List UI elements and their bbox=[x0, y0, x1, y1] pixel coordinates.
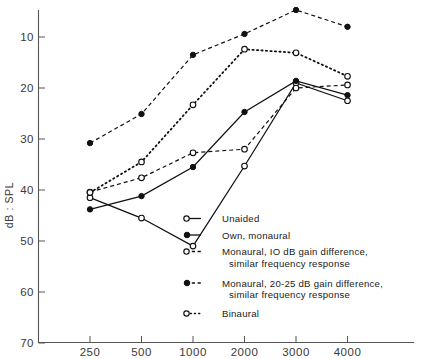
y-tick-label-40: 40 bbox=[20, 184, 34, 196]
data-point-open bbox=[345, 98, 351, 104]
data-series-layer bbox=[87, 7, 350, 249]
legend-marker-filled-circle bbox=[184, 280, 190, 286]
x-tick-label-4000: 4000 bbox=[334, 346, 362, 358]
x-tick-label-250: 250 bbox=[80, 346, 101, 358]
legend-marker-open-circle bbox=[184, 249, 189, 254]
data-point-filled bbox=[293, 78, 298, 83]
legend-label-own-monaural: Own, monaural bbox=[222, 230, 290, 241]
chart-plot-area: 10 20 30 40 50 60 70 dB : SPL 250 500 10… bbox=[0, 0, 436, 359]
data-point-open bbox=[139, 175, 145, 181]
data-point-filled bbox=[87, 140, 92, 145]
data-point-open bbox=[293, 50, 299, 56]
data-point-open bbox=[242, 46, 248, 52]
series-group bbox=[87, 80, 350, 249]
y-tick-label-10: 10 bbox=[20, 31, 34, 43]
legend-label-unaided: Unaided bbox=[222, 213, 260, 224]
legend-label-monaural-10db: Monaural, IO dB gain difference, bbox=[222, 246, 368, 257]
legend-marker-open-circle bbox=[184, 311, 189, 316]
x-axis-ticks: 250 500 1000 2000 3000 4000 bbox=[80, 336, 362, 358]
data-point-open bbox=[87, 190, 93, 196]
legend-entry-unaided: Unaided bbox=[184, 213, 260, 224]
data-point-open bbox=[345, 82, 351, 88]
y-tick-label-20: 20 bbox=[20, 82, 34, 94]
legend-label-monaural-10db-line2: similar frequency response bbox=[229, 258, 350, 269]
series-group bbox=[87, 46, 350, 195]
x-tick-label-1000: 1000 bbox=[179, 346, 207, 358]
y-tick-label-60: 60 bbox=[20, 286, 34, 298]
y-tick-label-70: 70 bbox=[20, 337, 34, 349]
legend-entry-monaural-20-25db: Monaural, 20-25 dB gain difference, simi… bbox=[184, 278, 383, 301]
data-point-filled bbox=[139, 193, 144, 198]
series-line bbox=[90, 83, 348, 246]
data-point-filled bbox=[242, 31, 247, 36]
y-axis-ticks: 10 20 30 40 50 60 70 bbox=[20, 31, 45, 349]
data-point-open bbox=[293, 85, 299, 91]
chart-legend: Unaided Own, monaural Monaural, IO dB ga… bbox=[184, 213, 383, 319]
data-point-open bbox=[190, 150, 196, 156]
data-point-open bbox=[139, 159, 145, 165]
x-tick-label-3000: 3000 bbox=[282, 346, 310, 358]
data-point-open bbox=[345, 73, 351, 79]
legend-marker-open-circle bbox=[184, 216, 189, 221]
x-tick-label-2000: 2000 bbox=[231, 346, 259, 358]
data-point-filled bbox=[190, 164, 195, 169]
data-point-open bbox=[242, 146, 248, 152]
y-tick-label-30: 30 bbox=[20, 133, 34, 145]
legend-entry-monaural-10db: Monaural, IO dB gain difference, similar… bbox=[184, 246, 368, 269]
data-point-open bbox=[190, 243, 196, 249]
legend-entry-own-monaural: Own, monaural bbox=[184, 230, 290, 241]
data-point-filled bbox=[293, 7, 298, 12]
data-point-open bbox=[139, 215, 145, 221]
data-point-filled bbox=[87, 207, 92, 212]
legend-label-monaural-20-25db: Monaural, 20-25 dB gain difference, bbox=[222, 278, 383, 289]
series-line bbox=[90, 85, 348, 192]
chart-container: 10 20 30 40 50 60 70 dB : SPL 250 500 10… bbox=[0, 0, 436, 359]
data-point-filled bbox=[345, 24, 350, 29]
data-point-open bbox=[242, 163, 248, 169]
legend-label-binaural: Binaural bbox=[222, 308, 259, 319]
data-point-filled bbox=[139, 111, 144, 116]
data-point-filled bbox=[190, 52, 195, 57]
series-group bbox=[87, 78, 350, 212]
data-point-open bbox=[190, 102, 196, 108]
y-axis-title: dB : SPL bbox=[3, 182, 15, 228]
legend-marker-filled-circle bbox=[184, 232, 190, 238]
legend-label-monaural-20-25db-line2: similar frequency response bbox=[229, 289, 350, 300]
series-line bbox=[90, 81, 348, 210]
y-tick-label-50: 50 bbox=[20, 235, 34, 247]
data-point-filled bbox=[242, 109, 247, 114]
data-point-filled bbox=[345, 92, 350, 97]
x-tick-label-500: 500 bbox=[131, 346, 152, 358]
series-group bbox=[87, 82, 350, 195]
legend-entry-binaural: Binaural bbox=[184, 308, 259, 319]
